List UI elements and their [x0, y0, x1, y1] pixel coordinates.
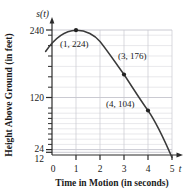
annotation-point-3: (4, 104) [106, 99, 135, 109]
x-axis-title: Time in Motion (in seconds) [55, 178, 168, 189]
data-point-4-104 [146, 108, 150, 112]
figure-container: 240 120 24 12 0 1 2 3 4 5 s(t) t (1, 224… [0, 0, 189, 191]
x-axis-symbol: t [179, 164, 182, 174]
grid-vertical [76, 30, 172, 155]
y-tick-label-240: 240 [30, 26, 45, 36]
x-tick-label-5: 5 [170, 164, 175, 174]
x-tick-label-3: 3 [122, 164, 127, 174]
annotation-point-2: (3, 176) [118, 51, 147, 61]
y-axis-title: Height Above Ground (in feet) [4, 33, 15, 156]
x-tick-label-1: 1 [74, 164, 79, 174]
grid-minor-horizontal [52, 35, 172, 144]
x-axis [52, 153, 183, 158]
annotation-point-1: (1, 224) [60, 39, 89, 49]
x-tick-label-2: 2 [98, 164, 103, 174]
data-point-1-224 [74, 28, 78, 32]
y-tick-label-24: 24 [35, 144, 45, 154]
data-point-3-176 [122, 72, 126, 76]
y-tick-label-120: 120 [30, 93, 45, 103]
y-axis-symbol: s(t) [36, 9, 49, 20]
curve-series-st [46, 30, 172, 157]
chart-svg: 240 120 24 12 0 1 2 3 4 5 s(t) t (1, 224… [0, 0, 189, 191]
x-tick-label-4: 4 [146, 164, 151, 174]
x-axis-ticks [76, 155, 172, 160]
y-tick-label-12: 12 [35, 154, 45, 164]
y-tick-label-0: 0 [51, 164, 56, 174]
